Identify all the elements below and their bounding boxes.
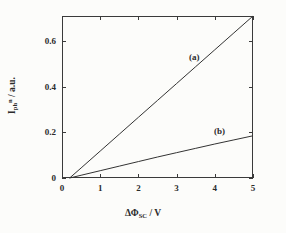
y-axis-label-subscript: ph [11,103,18,110]
x-tick-mark [215,174,216,178]
series-line-a [70,16,253,178]
y-tick-mark [249,87,253,88]
y-tick-label: 0.6 [30,37,56,46]
x-tick-label: 2 [136,184,141,193]
y-tick-mark [62,41,66,42]
x-tick-label: 3 [174,184,179,193]
y-tick-label: 0.2 [30,128,56,137]
y-axis-label-main: I [7,110,17,114]
y-tick-label: 0.4 [30,82,56,91]
x-tick-label: 4 [213,184,218,193]
y-tick-mark [249,178,253,179]
x-tick-label: 0 [60,184,65,193]
y-axis-label: Iphn / a.u. [7,36,18,156]
x-tick-mark [177,174,178,178]
x-tick-mark [100,16,101,20]
x-tick-mark [215,16,216,20]
x-tick-mark [138,174,139,178]
y-tick-mark [62,87,66,88]
y-axis-label-superscript: n [6,99,13,103]
x-axis-label: ΔΦSC / V [0,209,286,219]
y-axis-label-unit: / a.u. [7,77,17,99]
y-tick-mark [62,132,66,133]
x-axis-label-subscript: SC [139,212,147,219]
x-tick-label: 5 [251,184,256,193]
y-tick-mark [62,178,66,179]
y-tick-label: 0 [30,174,56,183]
x-tick-mark [62,16,63,20]
x-axis-label-unit: / V [147,208,161,218]
x-tick-label: 1 [98,184,103,193]
series-line-b [70,136,253,178]
x-axis-label-main: ΔΦ [125,208,139,218]
x-tick-mark [138,16,139,20]
curve-label-b: (b) [214,127,225,136]
chart-plot-area [62,16,253,178]
y-tick-mark [249,132,253,133]
curve-label-a: (a) [189,53,200,62]
x-tick-mark [253,16,254,20]
x-tick-mark [100,174,101,178]
x-tick-mark [177,16,178,20]
chart-screenshot: 01234500.20.40.6 ΔΦSC / V Iphn / a.u. (a… [0,0,286,233]
y-tick-mark [249,41,253,42]
x-tick-mark [253,174,254,178]
